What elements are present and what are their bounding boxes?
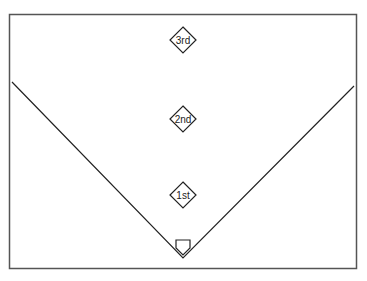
base-label: 1st (176, 190, 190, 201)
third-base: 3rd (170, 27, 196, 53)
base-label: 3rd (176, 35, 190, 46)
base-label: 2nd (175, 114, 192, 125)
first-base: 1st (170, 182, 196, 208)
second-base: 2nd (170, 106, 196, 132)
baseball-field-diagram: 3rd 2nd 1st (0, 0, 367, 281)
